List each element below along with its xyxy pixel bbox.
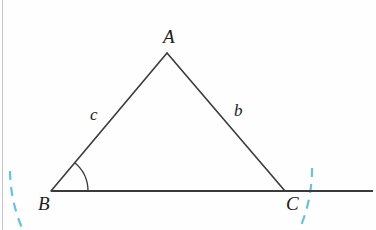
- triangle-side-c: [51, 53, 167, 191]
- triangle-side-b: [167, 53, 285, 191]
- angle-arc-at-B: [75, 163, 88, 191]
- diagram-canvas: [0, 0, 376, 230]
- geometry-figure: A B C c b: [0, 0, 376, 230]
- dashed-circle-arc: [10, 167, 312, 230]
